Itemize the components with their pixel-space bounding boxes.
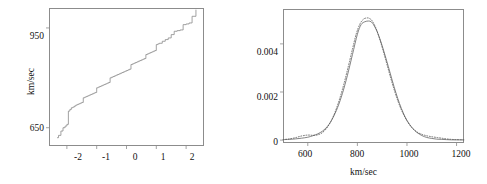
figure-container: km/sec 950 650 -2 -1 0 1 2 0.004 0.002 0…: [0, 0, 487, 184]
density-plot-panel: 0.004 0.002 0 600 800 1000 1200 km/sec: [0, 0, 487, 184]
density-dotted-curve: [283, 18, 464, 140]
density-solid-curve: [283, 21, 464, 140]
density-axis-ticks: [280, 44, 457, 146]
density-plot-canvas: [0, 0, 487, 184]
